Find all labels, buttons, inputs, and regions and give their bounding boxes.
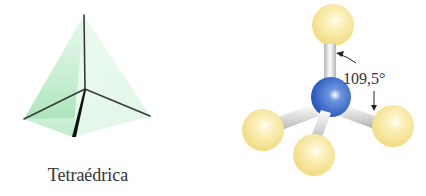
outer-atom-top [312,4,354,46]
tetrahedron-face-bottom [24,116,150,137]
molecule-model-panel: 109,5° [213,0,426,196]
outer-atom-right [372,105,414,147]
shape-name-label: Tetraédrica [40,165,136,186]
tetrahedral-shape-panel: Tetraédrica [0,0,213,196]
outer-atom-front [293,134,335,176]
arrow-head-right [371,105,377,111]
outer-atom-left [242,109,284,151]
ball-and-stick-molecule-icon [213,0,426,196]
arrow-head-top [336,51,344,57]
bond-angle-label: 109,5° [343,70,385,88]
